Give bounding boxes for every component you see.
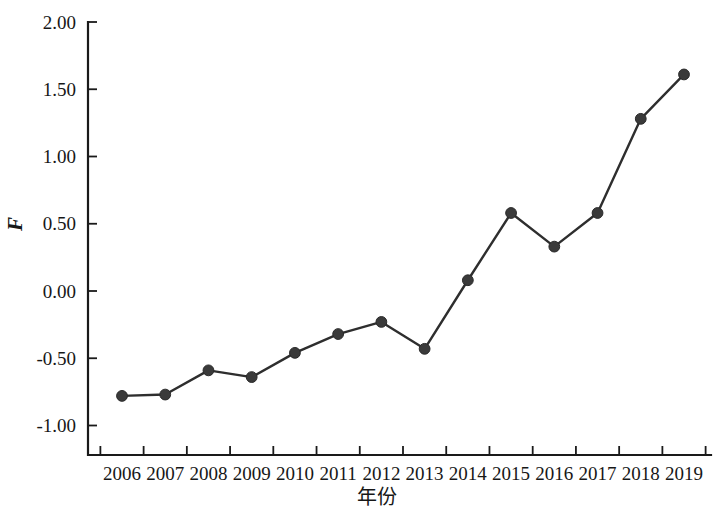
data-point-marker: 2016: 0.33 <box>549 241 560 252</box>
x-tick-label: 2006 <box>103 463 141 484</box>
x-tick-label: 2011 <box>320 463 357 484</box>
chart-figure: 2.001.501.000.500.00-0.50-1.00 200620072… <box>0 0 717 514</box>
data-series-line <box>122 74 684 395</box>
x-tick-label: 2017 <box>579 463 617 484</box>
x-tick-label: 2012 <box>362 463 400 484</box>
data-point-marker: 2011: -0.32 <box>333 329 344 340</box>
y-tick-label: -0.50 <box>36 348 76 369</box>
data-point-marker: 2007: -0.77 <box>160 389 171 400</box>
x-tick-label: 2019 <box>665 463 703 484</box>
y-axis-title: F <box>3 217 27 232</box>
data-point-marker: 2013: -0.43 <box>419 343 430 354</box>
x-tick-label: 2014 <box>449 463 488 484</box>
y-tick-label: 0.00 <box>43 281 76 302</box>
y-tick-label: 2.00 <box>43 12 76 33</box>
data-series-markers: 2006: -0.782007: -0.772008: -0.592009: -… <box>117 69 690 401</box>
data-point-marker: 2015: 0.58 <box>506 208 517 219</box>
x-tick-label: 2018 <box>622 463 660 484</box>
y-tick-label: 1.50 <box>43 79 76 100</box>
data-point-marker: 2009: -0.64 <box>246 372 257 383</box>
line-chart-svg: 2.001.501.000.500.00-0.50-1.00 200620072… <box>0 0 717 514</box>
data-point-marker: 2018: 1.28 <box>635 113 646 124</box>
data-point-marker: 2010: -0.46 <box>290 347 301 358</box>
y-tick-label: 0.50 <box>43 213 76 234</box>
x-axis-title: 年份 <box>357 486 397 508</box>
y-tick-label: -1.00 <box>36 415 76 436</box>
x-tick-label: 2007 <box>146 463 184 484</box>
x-tick-label: 2013 <box>406 463 444 484</box>
y-axis-tick-marks <box>88 22 97 426</box>
x-axis-tick-marks <box>100 446 705 455</box>
x-tick-label: 2010 <box>276 463 314 484</box>
data-point-marker: 2008: -0.59 <box>203 365 214 376</box>
axis-frame <box>88 22 711 455</box>
x-tick-label: 2008 <box>189 463 227 484</box>
x-tick-label: 2016 <box>535 463 573 484</box>
data-point-marker: 2014: 0.08 <box>462 275 473 286</box>
y-tick-label: 1.00 <box>43 146 76 167</box>
data-point-marker: 2006: -0.78 <box>117 391 128 402</box>
x-axis-tick-labels: 2006200720082009201020112012201320142015… <box>103 463 703 484</box>
data-point-marker: 2017: 0.58 <box>592 208 603 219</box>
data-point-marker: 2019: 1.61 <box>679 69 690 80</box>
x-tick-label: 2015 <box>492 463 530 484</box>
x-tick-label: 2009 <box>233 463 271 484</box>
y-axis-tick-labels: 2.001.501.000.500.00-0.50-1.00 <box>36 12 76 437</box>
data-point-marker: 2012: -0.23 <box>376 317 387 328</box>
